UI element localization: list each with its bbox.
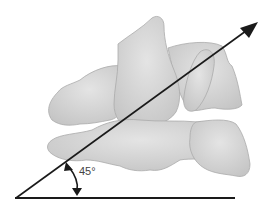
right-lamina — [190, 120, 250, 177]
angle-arrowhead-bottom-icon — [72, 188, 82, 196]
angle-label: 45° — [79, 165, 96, 177]
angle-arrowhead-top-icon — [64, 162, 73, 171]
vertebral-body — [114, 16, 180, 128]
arrowhead-icon — [240, 22, 258, 38]
vertebra-angle-diagram: 45° — [0, 0, 271, 211]
